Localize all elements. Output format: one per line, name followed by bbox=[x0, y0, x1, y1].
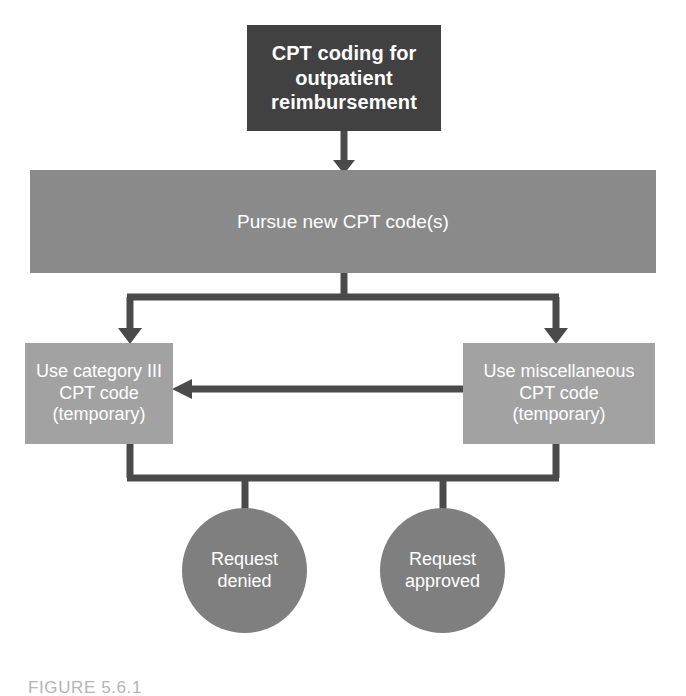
figure-caption: FIGURE 5.6.1 bbox=[28, 678, 142, 696]
edge-pursue-to-split bbox=[127, 273, 559, 297]
edge-start-to-pursue bbox=[333, 131, 355, 174]
flowchart-figure: CPT coding for outpatient reimbursement … bbox=[0, 0, 686, 696]
edge-split-to-miscellaneous bbox=[544, 297, 568, 344]
edge-split-to-category-three bbox=[118, 297, 142, 344]
node-request-approved: Request approved bbox=[380, 508, 505, 633]
node-use-category-iii-cpt-code: Use category III CPT code (temporary) bbox=[25, 343, 173, 444]
edge-miscellaneous-to-category-three bbox=[172, 379, 463, 399]
node-use-miscellaneous-cpt-code: Use miscellaneous CPT code (temporary) bbox=[463, 343, 655, 444]
node-request-denied: Request denied bbox=[182, 508, 307, 633]
node-pursue-new-cpt-code: Pursue new CPT code(s) bbox=[30, 170, 656, 273]
node-start-cpt-coding: CPT coding for outpatient reimbursement bbox=[247, 25, 441, 131]
